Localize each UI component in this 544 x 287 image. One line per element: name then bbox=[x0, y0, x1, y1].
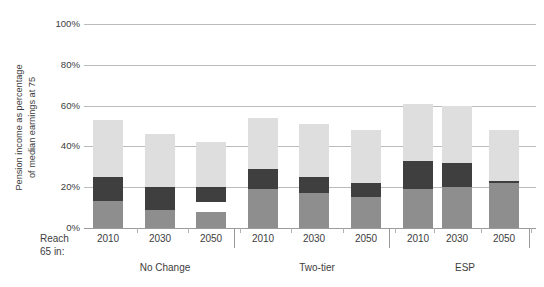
x-tick-label-two-tier-2010: 2010 bbox=[241, 233, 285, 244]
segment-bottom bbox=[299, 193, 329, 228]
segment-bottom bbox=[442, 187, 472, 228]
y-tick-label: 40% bbox=[48, 140, 80, 151]
reach-age-label: Reach 65 in: bbox=[40, 233, 69, 258]
segment-top bbox=[248, 118, 278, 169]
segment-top bbox=[489, 130, 519, 181]
x-tick-label-no-change-2010: 2010 bbox=[86, 233, 130, 244]
segment-top bbox=[299, 124, 329, 177]
bar-no-change-2030 bbox=[145, 134, 175, 228]
x-tick-label-esp-2030: 2030 bbox=[435, 233, 479, 244]
reach-label-line2: 65 in: bbox=[40, 246, 69, 259]
stacked-bar-chart: Pension income as percentage of median e… bbox=[0, 0, 544, 287]
y-axis-title-line1: Pension income as percentage bbox=[13, 35, 26, 221]
segment-middle bbox=[442, 163, 472, 187]
segment-top bbox=[351, 130, 381, 183]
y-tick-label: 0% bbox=[48, 222, 80, 233]
group-separator bbox=[529, 229, 530, 248]
segment-top bbox=[93, 120, 123, 177]
bar-two-tier-2030 bbox=[299, 124, 329, 228]
segment-top bbox=[145, 134, 175, 187]
x-tick bbox=[531, 228, 532, 233]
segment-bottom bbox=[248, 189, 278, 228]
segment-bottom bbox=[403, 189, 433, 228]
segment-middle bbox=[196, 187, 226, 201]
x-tick-label-two-tier-2050: 2050 bbox=[344, 233, 388, 244]
segment-middle bbox=[93, 177, 123, 201]
bar-esp-2050 bbox=[489, 130, 519, 228]
y-tick-label: 80% bbox=[48, 59, 80, 70]
y-tick-label: 20% bbox=[48, 181, 80, 192]
x-axis-baseline bbox=[84, 228, 536, 229]
bar-esp-2030 bbox=[442, 106, 472, 228]
group-label-two-tier: Two-tier bbox=[252, 262, 382, 273]
y-tick-label: 60% bbox=[48, 100, 80, 111]
segment-middle bbox=[145, 187, 175, 209]
segment-bottom bbox=[93, 201, 123, 228]
segment-middle bbox=[248, 169, 278, 189]
x-tick-label-no-change-2030: 2030 bbox=[138, 233, 182, 244]
group-separator bbox=[234, 229, 235, 248]
group-separator bbox=[389, 229, 390, 248]
segment-bottom bbox=[196, 212, 226, 228]
bar-two-tier-2050 bbox=[351, 130, 381, 228]
bar-no-change-2010 bbox=[93, 120, 123, 228]
y-tick-label: 100% bbox=[48, 18, 80, 29]
bar-esp-2010 bbox=[403, 104, 433, 228]
bar-two-tier-2010 bbox=[248, 118, 278, 228]
segment-bottom bbox=[145, 210, 175, 228]
x-tick-label-no-change-2050: 2050 bbox=[189, 233, 233, 244]
group-label-esp: ESP bbox=[405, 262, 525, 273]
y-axis-title: Pension income as percentage of median e… bbox=[13, 35, 38, 221]
segment-gap bbox=[196, 202, 226, 212]
gridline-80% bbox=[84, 65, 536, 66]
segment-top bbox=[403, 104, 433, 161]
group-label-no-change: No Change bbox=[100, 262, 230, 273]
y-axis-title-line2: of median earnings at 75 bbox=[25, 35, 38, 221]
segment-bottom bbox=[351, 197, 381, 228]
segment-bottom bbox=[489, 183, 519, 228]
bar-no-change-2050 bbox=[196, 142, 226, 228]
reach-label-line1: Reach bbox=[40, 233, 69, 246]
x-tick-label-esp-2050: 2050 bbox=[482, 233, 526, 244]
x-tick-label-two-tier-2030: 2030 bbox=[292, 233, 336, 244]
segment-middle bbox=[351, 183, 381, 197]
segment-middle bbox=[403, 161, 433, 190]
segment-top bbox=[196, 142, 226, 187]
segment-top bbox=[442, 106, 472, 163]
segment-middle bbox=[299, 177, 329, 193]
plot-area bbox=[84, 24, 536, 228]
x-tick-label-esp-2010: 2010 bbox=[396, 233, 440, 244]
gridline-100% bbox=[84, 24, 536, 25]
